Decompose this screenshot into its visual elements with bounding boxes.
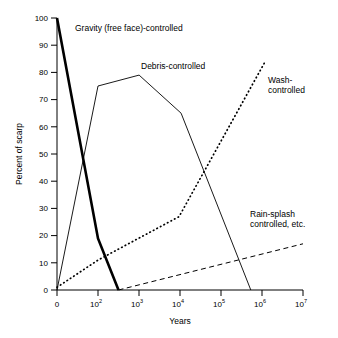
series-rain-splash-curve <box>119 244 304 290</box>
series-gravity-curve <box>57 18 119 290</box>
y-tick-label: 20 <box>39 231 48 240</box>
wash-annotation-line2: controlled <box>268 85 305 95</box>
y-tick-label: 100 <box>35 14 49 23</box>
series-debris-curve <box>57 75 251 290</box>
scarp-degradation-chart: 0 10 20 30 40 50 60 70 80 90 100 0 10 <box>0 0 338 338</box>
y-axis-title: Percent of scarp <box>14 123 24 185</box>
debris-annotation: Debris-controlled <box>141 61 206 71</box>
x-tick-label: 107 <box>295 298 307 309</box>
y-tick-label: 10 <box>39 259 48 268</box>
x-tick-marks <box>57 290 303 296</box>
rain-splash-annotation-line2: controlled, etc. <box>250 219 305 229</box>
y-tick-label: 90 <box>39 41 48 50</box>
y-tick-label: 60 <box>39 123 48 132</box>
x-tick-label: 104 <box>172 298 184 309</box>
y-tick-label: 30 <box>39 204 48 213</box>
x-tick-label: 106 <box>254 298 266 309</box>
y-tick-label: 0 <box>44 286 49 295</box>
wash-annotation-line1: Wash- <box>268 75 292 85</box>
chart-figure: 0 10 20 30 40 50 60 70 80 90 100 0 10 <box>0 0 338 338</box>
gravity-annotation: Gravity (free face)-controlled <box>75 23 183 33</box>
x-tick-label: 103 <box>131 298 143 309</box>
x-tick-label: 102 <box>90 298 102 309</box>
y-tick-marks <box>51 18 57 290</box>
rain-splash-annotation-line1: Rain-splash <box>250 209 295 219</box>
x-tick-label: 105 <box>213 298 225 309</box>
x-tick-label: 0 <box>55 300 60 309</box>
y-tick-label: 40 <box>39 177 48 186</box>
x-tick-labels: 0 102 103 104 105 106 107 <box>55 298 307 309</box>
x-axis-title: Years <box>169 316 190 326</box>
y-tick-label: 80 <box>39 68 48 77</box>
y-tick-labels: 0 10 20 30 40 50 60 70 80 90 100 <box>35 14 49 295</box>
y-tick-label: 70 <box>39 95 48 104</box>
y-tick-label: 50 <box>39 150 48 159</box>
